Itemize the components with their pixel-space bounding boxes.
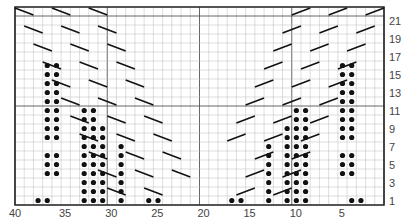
purl-dot <box>340 72 345 77</box>
purl-dot <box>45 72 50 77</box>
purl-dot <box>45 117 50 122</box>
svg-text:3: 3 <box>389 177 395 189</box>
purl-dot <box>91 180 96 185</box>
purl-dot <box>100 189 105 194</box>
purl-dot <box>285 135 290 140</box>
purl-dot <box>349 108 354 113</box>
purl-dot <box>91 117 96 122</box>
purl-dot <box>294 189 299 194</box>
purl-dot <box>82 153 87 158</box>
svg-text:35: 35 <box>59 207 71 219</box>
purl-dot <box>294 162 299 167</box>
purl-dot <box>100 198 105 203</box>
purl-dot <box>118 144 123 149</box>
svg-text:30: 30 <box>105 207 117 219</box>
purl-dot <box>146 198 151 203</box>
purl-dot <box>54 117 59 122</box>
purl-dot <box>100 135 105 140</box>
purl-dot <box>45 135 50 140</box>
svg-text:20: 20 <box>197 207 209 219</box>
purl-dot <box>91 171 96 176</box>
purl-dot <box>285 180 290 185</box>
purl-dot <box>349 72 354 77</box>
purl-dot <box>155 198 160 203</box>
purl-dot <box>45 90 50 95</box>
purl-dot <box>35 198 40 203</box>
purl-dot <box>349 81 354 86</box>
purl-dot <box>303 189 308 194</box>
purl-dot <box>294 126 299 131</box>
purl-dot <box>266 180 271 185</box>
svg-text:9: 9 <box>389 123 395 135</box>
purl-dot <box>100 144 105 149</box>
purl-dot <box>294 180 299 185</box>
purl-dot <box>54 90 59 95</box>
purl-dot <box>45 108 50 113</box>
purl-dot <box>340 171 345 176</box>
purl-dot <box>285 153 290 158</box>
purl-dot <box>266 189 271 194</box>
purl-dot <box>285 198 290 203</box>
purl-dot <box>340 126 345 131</box>
purl-dot <box>349 198 354 203</box>
purl-dot <box>91 189 96 194</box>
purl-dot <box>54 162 59 167</box>
purl-dot <box>91 198 96 203</box>
purl-dot <box>82 126 87 131</box>
purl-dot <box>91 126 96 131</box>
svg-text:13: 13 <box>389 87 401 99</box>
purl-dot <box>118 180 123 185</box>
svg-text:19: 19 <box>389 33 401 45</box>
svg-text:15: 15 <box>244 207 256 219</box>
purl-dot <box>349 126 354 131</box>
purl-dot <box>54 99 59 104</box>
purl-dot <box>82 144 87 149</box>
purl-dot <box>100 180 105 185</box>
purl-dot <box>294 108 299 113</box>
purl-dot <box>54 108 59 113</box>
svg-text:25: 25 <box>151 207 163 219</box>
purl-dot <box>54 126 59 131</box>
purl-dot <box>349 162 354 167</box>
purl-dot <box>294 144 299 149</box>
purl-dot <box>118 171 123 176</box>
purl-dot <box>82 198 87 203</box>
purl-dot <box>238 198 243 203</box>
purl-dot <box>266 198 271 203</box>
purl-dot <box>349 153 354 158</box>
svg-text:17: 17 <box>389 51 401 63</box>
purl-dot <box>340 117 345 122</box>
svg-text:15: 15 <box>389 69 401 81</box>
purl-dot <box>82 108 87 113</box>
svg-text:40: 40 <box>9 207 21 219</box>
purl-dot <box>45 126 50 131</box>
purl-dot <box>303 144 308 149</box>
purl-dot <box>285 144 290 149</box>
svg-text:7: 7 <box>389 141 395 153</box>
purl-dot <box>340 99 345 104</box>
purl-dot <box>82 162 87 167</box>
purl-dot <box>82 180 87 185</box>
purl-dot <box>54 72 59 77</box>
purl-dot <box>45 153 50 158</box>
purl-dot <box>340 135 345 140</box>
purl-dot <box>294 135 299 140</box>
purl-dot <box>303 180 308 185</box>
purl-dot <box>45 198 50 203</box>
purl-dot <box>266 144 271 149</box>
purl-dot <box>303 198 308 203</box>
purl-dot <box>100 162 105 167</box>
svg-text:10: 10 <box>290 207 302 219</box>
purl-dot <box>303 108 308 113</box>
purl-dot <box>45 162 50 167</box>
purl-dot <box>91 162 96 167</box>
purl-dot <box>358 198 363 203</box>
svg-text:21: 21 <box>389 15 401 27</box>
purl-dot <box>100 126 105 131</box>
purl-dot <box>82 189 87 194</box>
purl-dot <box>229 198 234 203</box>
purl-dot <box>340 153 345 158</box>
purl-dot <box>91 108 96 113</box>
purl-dot <box>54 135 59 140</box>
purl-dot <box>303 126 308 131</box>
